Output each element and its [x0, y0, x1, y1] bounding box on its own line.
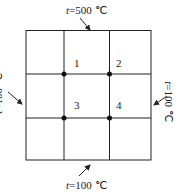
- temp-var: t: [0, 111, 4, 114]
- node-label-4: 4: [116, 100, 122, 111]
- temp-value: =100 ℃: [69, 179, 106, 191]
- boundary-label-right: t=100 ℃: [163, 81, 174, 122]
- arrow-left-icon: [8, 92, 22, 104]
- arrow-top-icon: [80, 18, 90, 30]
- grid-diagram: [0, 0, 182, 196]
- node-2-dot: [107, 72, 112, 77]
- node-label-1: 1: [74, 58, 80, 69]
- temp-value: =100 ℃: [163, 84, 175, 121]
- node-4-dot: [107, 116, 112, 121]
- node-3-dot: [62, 116, 67, 121]
- boundary-label-left: t=100 ℃: [0, 73, 4, 114]
- node-1-dot: [62, 72, 67, 77]
- temp-value: =100 ℃: [0, 73, 4, 110]
- boundary-label-top: t=500 ℃: [66, 5, 107, 16]
- temp-value: =500 ℃: [69, 4, 106, 16]
- node-label-2: 2: [116, 58, 122, 69]
- node-label-3: 3: [74, 100, 80, 111]
- boundary-label-bottom: t=100 ℃: [66, 180, 107, 191]
- outer-boundary: [26, 31, 151, 161]
- arrow-bottom-icon: [79, 165, 90, 176]
